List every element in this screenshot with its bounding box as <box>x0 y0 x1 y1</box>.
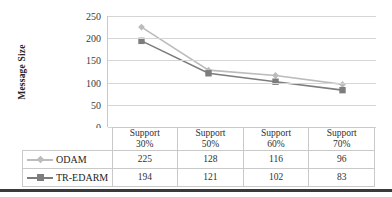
column-header-0: Support30% <box>112 128 178 151</box>
table-row: ODAM22512811696 <box>23 150 375 168</box>
square-marker-tr-edarm-3 <box>339 87 345 93</box>
column-header-2: Support60% <box>243 128 309 151</box>
gridline-100 <box>108 83 376 84</box>
bottom-divider-rule <box>0 189 392 192</box>
legend-label: TR-EDARM <box>56 172 108 183</box>
y-axis-tick-250: 250 <box>86 11 101 22</box>
plot-area <box>107 16 375 127</box>
legend-item-inner: ODAM <box>27 151 112 168</box>
y-axis-tick-labels: 050100150200250 <box>62 16 106 128</box>
data-cell-tr-edarm-2: 102 <box>243 168 309 186</box>
legend-header-spacer <box>23 128 113 151</box>
column-header-label: Support <box>309 128 374 139</box>
y-axis-tick-150: 150 <box>86 55 101 66</box>
data-cell-odam-1: 128 <box>178 150 244 168</box>
legend-square-marker <box>37 174 44 181</box>
y-axis-tick-100: 100 <box>86 77 101 88</box>
column-header-value: 60% <box>244 139 309 150</box>
table-body: Support30%Support50%Support60%Support70%… <box>23 128 375 187</box>
data-cell-odam-0: 225 <box>112 150 178 168</box>
column-header-3: Support70% <box>309 128 375 151</box>
legend-item-tr-edarm[interactable]: TR-EDARM <box>23 168 113 186</box>
gridline-150 <box>108 60 376 61</box>
column-header-label: Support <box>113 128 178 139</box>
y-axis-title-text: Message Size <box>17 44 27 99</box>
data-cell-tr-edarm-1: 121 <box>178 168 244 186</box>
chart-figure: Message Size 050100150200250 Support30%S… <box>0 0 392 197</box>
table-header-row: Support30%Support50%Support60%Support70% <box>23 128 375 151</box>
column-header-1: Support50% <box>178 128 244 151</box>
table-row: TR-EDARM19412110283 <box>23 168 375 186</box>
data-cell-tr-edarm-0: 194 <box>112 168 178 186</box>
data-cell-tr-edarm-3: 83 <box>309 168 375 186</box>
column-header-label: Support <box>178 128 243 139</box>
gridline-50 <box>108 105 376 106</box>
column-header-label: Support <box>244 128 309 139</box>
gridline-250 <box>108 16 376 17</box>
y-axis-tick-50: 50 <box>91 99 101 110</box>
data-cell-odam-2: 116 <box>243 150 309 168</box>
diamond-marker-odam-2 <box>272 72 279 79</box>
plot-series-svg <box>108 16 376 127</box>
gridline-200 <box>108 38 376 39</box>
diamond-marker-legend-icon <box>27 154 53 165</box>
chart-data-table: Support30%Support50%Support60%Support70%… <box>22 127 375 187</box>
column-header-value: 50% <box>178 139 243 150</box>
legend-label: ODAM <box>56 154 87 165</box>
column-header-value: 30% <box>113 139 178 150</box>
data-cell-odam-3: 96 <box>309 150 375 168</box>
y-axis-tick-200: 200 <box>86 33 101 44</box>
y-axis-title: Message Size <box>14 22 30 122</box>
legend-item-odam[interactable]: ODAM <box>23 150 113 168</box>
column-header-value: 70% <box>309 139 374 150</box>
square-marker-tr-edarm-1 <box>205 70 211 76</box>
square-marker-legend-icon <box>27 172 53 183</box>
legend-diamond-marker <box>37 155 45 163</box>
legend-item-inner: TR-EDARM <box>27 169 112 186</box>
